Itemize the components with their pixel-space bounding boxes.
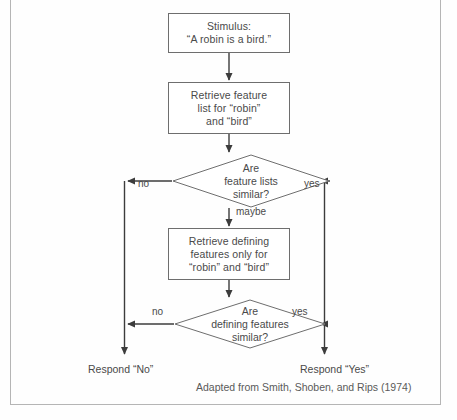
node-retrieve-features: Retrieve feature list for “robin” and “b… bbox=[168, 82, 290, 134]
figure-canvas: Stimulus: “A robin is a bird.” Retrieve … bbox=[0, 0, 457, 420]
page-frame-left-rule bbox=[10, 0, 11, 405]
node-respond-no: Respond “No” bbox=[88, 363, 153, 375]
edge-label-feature-lists-no: no bbox=[138, 178, 149, 190]
node-retrieve-defining-features-label: Retrieve defining features only for “rob… bbox=[189, 235, 270, 274]
edge-label-defining-yes: yes bbox=[292, 306, 308, 318]
page-frame-bottom-rule bbox=[10, 404, 441, 405]
node-retrieve-defining-features: Retrieve defining features only for “rob… bbox=[168, 228, 290, 280]
edge-label-feature-lists-yes: yes bbox=[304, 178, 320, 190]
node-stimulus-label: Stimulus: “A robin is a bird.” bbox=[187, 20, 271, 46]
node-retrieve-features-label: Retrieve feature list for “robin” and “b… bbox=[191, 89, 267, 128]
node-respond-yes: Respond “Yes” bbox=[300, 363, 369, 375]
edge-label-defining-no: no bbox=[152, 306, 163, 318]
node-stimulus: Stimulus: “A robin is a bird.” bbox=[168, 13, 290, 53]
edge-label-feature-lists-maybe: maybe bbox=[236, 206, 266, 218]
figure-attribution: Adapted from Smith, Shoben, and Rips (19… bbox=[196, 381, 411, 393]
flowchart-connectors bbox=[0, 0, 457, 420]
page-frame-right-rule bbox=[440, 0, 441, 405]
